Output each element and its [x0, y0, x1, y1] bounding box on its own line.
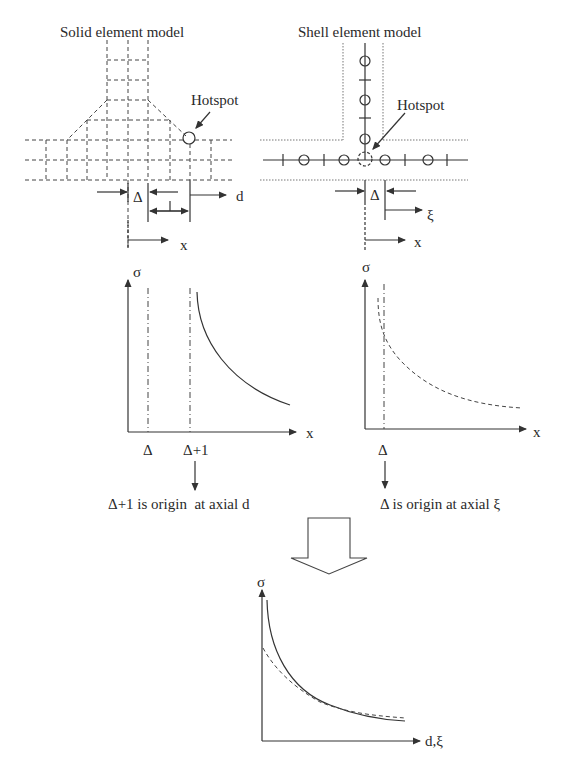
solid-stress-chart: σ x Δ Δ+1 Δ+1 is origin at axial d — [108, 264, 314, 512]
solid-hotspot-circle — [183, 132, 195, 144]
solid-dimensions — [97, 180, 226, 250]
solid-x-label: x — [180, 237, 188, 253]
hotspot-stress-diagram: Solid element model H — [0, 0, 569, 757]
shell-stress-curve — [378, 298, 522, 408]
solid-delta-label: Δ — [133, 189, 143, 205]
solid-mesh-grid — [25, 40, 232, 250]
solid-model-title: Solid element model — [60, 24, 184, 40]
shell-hotspot-arrow — [373, 113, 405, 149]
shell-hotspot-label: Hotspot — [397, 97, 445, 113]
solid-chart-sigma: σ — [133, 264, 141, 280]
shell-chart-caption: Δ is origin at axial ξ — [380, 496, 500, 512]
shell-stress-chart: σ x Δ Δ is origin at axial ξ — [362, 259, 541, 512]
solid-chart-x: x — [306, 425, 314, 441]
combined-chart-x: d,ξ — [425, 733, 443, 749]
shell-x-label: x — [414, 234, 422, 250]
solid-chart-tick-delta: Δ — [143, 442, 153, 458]
shell-chart-tick-delta: Δ — [378, 442, 388, 458]
down-block-arrow-icon — [291, 518, 367, 574]
shell-element-model: Shell element model Hotspot — [260, 24, 468, 250]
solid-element-model: Solid element model H — [25, 24, 244, 253]
solid-stress-curve — [197, 292, 290, 405]
shell-chart-sigma: σ — [362, 259, 370, 275]
shell-chart-x: x — [533, 424, 541, 440]
shell-delta-label: Δ — [370, 187, 380, 203]
solid-chart-tick-delta-plus-1: Δ+1 — [183, 442, 209, 458]
combined-shell-curve — [263, 648, 405, 718]
combined-chart-sigma: σ — [257, 574, 265, 590]
shell-xi-label: ξ — [427, 207, 434, 223]
solid-hotspot-label: Hotspot — [191, 92, 239, 108]
solid-d-label: d — [236, 188, 244, 204]
combined-stress-chart: σ d,ξ — [257, 574, 443, 749]
combined-solid-curve — [267, 600, 405, 721]
solid-chart-caption: Δ+1 is origin at axial d — [108, 496, 250, 512]
solid-hotspot-arrow — [196, 112, 210, 128]
shell-model-title: Shell element model — [298, 24, 421, 40]
